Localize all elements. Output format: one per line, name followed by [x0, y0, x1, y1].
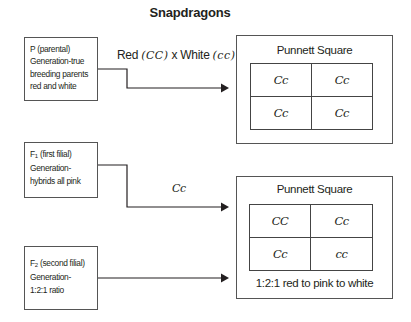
punnett-1-grid: Cc Cc Cc Cc	[250, 63, 373, 130]
punnett-2-grid: CC Cc Cc cc	[249, 204, 373, 271]
arrowhead-icon	[221, 203, 229, 212]
punnett-1-cell: Cc	[251, 64, 312, 97]
punnett-1-cell: Cc	[251, 97, 312, 130]
punnett-1-title: Punnett Square	[237, 44, 392, 56]
arrowhead-icon	[221, 84, 229, 93]
red-genotype: (CC)	[141, 49, 168, 62]
punnett-2-cell: cc	[311, 238, 372, 271]
punnett-2-cell: Cc	[311, 205, 372, 238]
f1-to-punnett2-arrow	[98, 165, 222, 207]
white-genotype: (cc)	[213, 49, 236, 62]
punnett-2-cell: Cc	[250, 238, 311, 271]
p-to-punnett1-arrow	[98, 69, 222, 88]
punnett-square-1: Punnett Square Cc Cc Cc Cc	[236, 35, 393, 144]
red-label: Red	[117, 48, 141, 62]
punnett-square-2: Punnett Square CC Cc Cc cc 1:2:1 red to …	[236, 176, 393, 299]
punnett-2-cell: CC	[250, 205, 311, 238]
cross-label: Red (CC) x White (cc)	[117, 48, 235, 62]
cross-times-white: x White	[169, 48, 213, 62]
punnett-1-cell: Cc	[312, 97, 373, 130]
arrowhead-icon	[221, 274, 229, 283]
punnett-1-cell: Cc	[312, 64, 373, 97]
punnett-2-ratio-caption: 1:2:1 red to pink to white	[237, 277, 392, 289]
punnett-2-title: Punnett Square	[237, 183, 392, 195]
f1-genotype-label: Cc	[172, 182, 186, 195]
